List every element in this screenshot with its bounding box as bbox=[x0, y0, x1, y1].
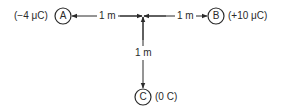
charge-c-letter: C bbox=[135, 91, 151, 103]
charge-b-letter: B bbox=[208, 10, 224, 22]
charge-a-letter: A bbox=[55, 10, 71, 22]
charge-b-value: (+10 μC) bbox=[228, 10, 267, 22]
distance-label-a: 1 m bbox=[97, 10, 118, 22]
distance-label-b: 1 m bbox=[175, 10, 196, 22]
charge-diagram: A B C (−4 μC) (+10 μC) (0 C) 1 m 1 m 1 m bbox=[0, 0, 288, 112]
charge-a-value: (−4 μC) bbox=[14, 10, 48, 22]
distance-label-c: 1 m bbox=[134, 46, 153, 60]
charge-c-value: (0 C) bbox=[155, 91, 177, 103]
